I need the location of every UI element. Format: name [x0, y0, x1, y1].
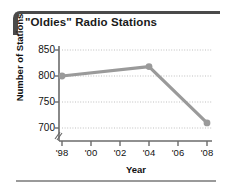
- data-point-marker: [146, 63, 153, 70]
- data-point-marker: [204, 120, 211, 127]
- data-series-line: [62, 67, 207, 123]
- gridlines: [62, 50, 212, 128]
- chart-figure: "Oldies" Radio Stations Number of Statio…: [0, 0, 230, 186]
- data-point-marker: [59, 73, 66, 80]
- plot-area: Number of Stations Year 850 800 750 700 …: [0, 0, 230, 186]
- plot-svg: [0, 0, 230, 186]
- bottom-divider: [16, 180, 216, 182]
